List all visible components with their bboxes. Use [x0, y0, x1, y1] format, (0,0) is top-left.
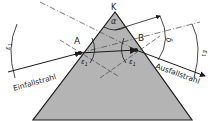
right-angle-label: ε1	[201, 50, 210, 57]
deviation-angle-label: δ	[164, 37, 174, 43]
prism-refraction-diagram: K α A B ε1 ε1 ε1 δ ε1 Einfallstrahl Ausf…	[0, 0, 212, 121]
incident-ray-line	[8, 53, 80, 72]
point-b-dot	[134, 48, 138, 52]
point-b-label: B	[138, 33, 144, 43]
right-angle-arc	[192, 24, 198, 78]
apex-angle-label: α	[111, 17, 117, 26]
left-angle-label: ε1	[4, 43, 13, 50]
incident-ray-label: Einfallstrahl	[12, 72, 57, 93]
apex-label: K	[111, 3, 117, 12]
point-a-label: A	[74, 36, 81, 46]
point-a-dot	[78, 51, 82, 55]
